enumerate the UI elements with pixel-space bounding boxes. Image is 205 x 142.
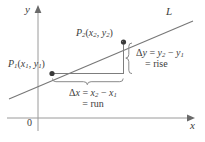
- delta-y-annotation: Δy = y2 − y1 = rise: [136, 48, 184, 70]
- run-brace: [53, 79, 124, 85]
- point-p1-label: P1(x1, y1): [8, 59, 45, 70]
- y-axis-label: y: [25, 4, 30, 16]
- point-p1-marker: [49, 71, 54, 76]
- delta-x-term2-sub: 1: [114, 91, 117, 98]
- triangle-legs: [52, 42, 124, 74]
- delta-x-equals: =: [80, 87, 91, 98]
- slope-diagram: y x 0 L P1(x1, y1) P2(x2, y2) Δy = y2 − …: [0, 0, 205, 142]
- p2-close-paren: ): [110, 27, 113, 38]
- delta-x-second-line: = run: [52, 99, 134, 110]
- origin-label: 0: [27, 118, 32, 129]
- delta-x-annotation: Δx = x2 − x1 = run: [52, 88, 134, 110]
- delta-y-second-line: = rise: [136, 59, 184, 70]
- x-axis-label: x: [190, 120, 195, 132]
- delta-y-term2-sub: 1: [180, 51, 183, 58]
- delta-y-minus: −: [165, 47, 176, 58]
- delta-y-equals: =: [147, 47, 158, 58]
- p1-close-paren: ): [42, 58, 45, 69]
- x-axis: [7, 115, 195, 122]
- delta-x-minus: −: [98, 87, 109, 98]
- point-p2-label: P2(x2, y2): [76, 28, 113, 39]
- line-label-L: L: [166, 6, 172, 18]
